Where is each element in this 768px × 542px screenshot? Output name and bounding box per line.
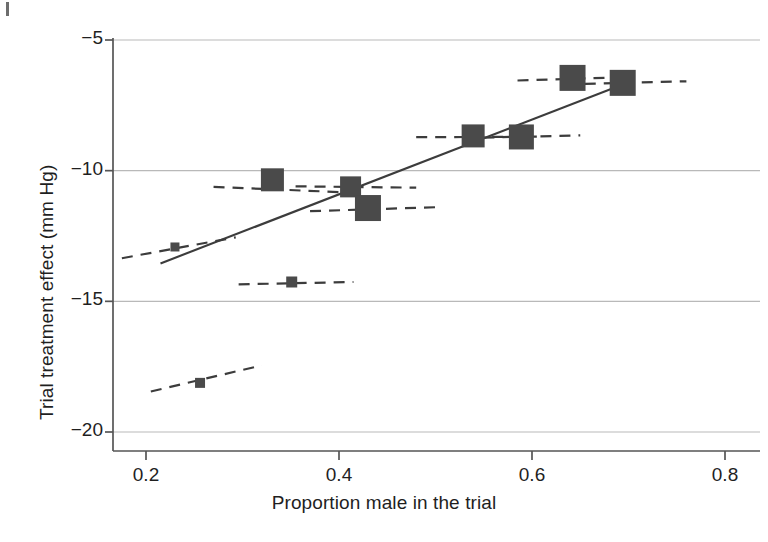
confidence-interval-group	[122, 77, 687, 391]
gridlines-group	[113, 40, 760, 432]
data-marker-trial-9	[560, 65, 586, 91]
x-tick-label-2: 0.6	[502, 464, 562, 486]
plot-canvas	[0, 0, 768, 542]
regression-line-group	[160, 82, 628, 263]
y-tick-label-3: −20	[39, 419, 103, 441]
x-tick-label-3: 0.8	[695, 464, 755, 486]
data-marker-trial-2	[195, 378, 205, 388]
data-marker-trial-3	[261, 168, 284, 191]
ci-bar-2	[151, 365, 262, 391]
scatter-plot-figure: −5−10−15−20 0.20.40.60.8 Trial treatment…	[0, 0, 768, 542]
data-marker-trial-1	[170, 242, 179, 251]
y-tick-label-0: −5	[39, 27, 103, 49]
page-corner-mark	[6, 2, 9, 16]
data-marker-trial-10	[610, 70, 636, 96]
y-axis-title: Trial treatment effect (mm Hg)	[36, 165, 58, 420]
x-tick-label-1: 0.4	[309, 464, 369, 486]
x-axis-title: Proportion male in the trial	[0, 492, 768, 514]
meta-regression-line	[160, 82, 628, 263]
axes-group	[105, 38, 760, 460]
data-markers-group	[170, 65, 635, 388]
data-marker-trial-4	[286, 276, 297, 287]
data-marker-trial-5	[340, 176, 361, 197]
data-marker-trial-8	[509, 124, 534, 149]
x-tick-label-0: 0.2	[116, 464, 176, 486]
data-marker-trial-7	[462, 124, 485, 147]
data-marker-trial-6	[355, 195, 381, 221]
